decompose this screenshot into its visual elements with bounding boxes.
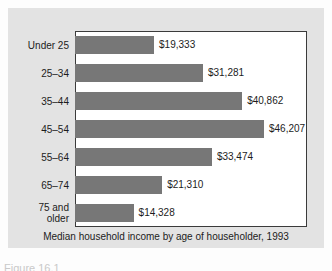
category-label: 25–34 (8, 59, 72, 87)
category-label-line: 75 and (38, 202, 69, 213)
bar-value-label: $33,474 (217, 152, 253, 162)
bar-row: $19,333 (75, 31, 307, 59)
category-label: 65–74 (8, 171, 72, 199)
bar-value-label: $19,333 (159, 40, 195, 50)
bar-row: $14,328 (75, 199, 307, 227)
bar (75, 176, 162, 194)
category-label-line: 35–44 (41, 96, 69, 107)
bar-row: $40,862 (75, 87, 307, 115)
category-label: 75 and older (8, 199, 72, 227)
bar (75, 204, 134, 222)
bar-value-label: $46,207 (269, 124, 305, 134)
bar-series: $19,333 $31,281 $40,862 $46,207 $33,474 … (75, 31, 307, 227)
bar-value-label: $14,328 (139, 208, 175, 218)
bar (75, 92, 242, 110)
bar-value-label: $21,310 (167, 180, 203, 190)
bar-row: $46,207 (75, 115, 307, 143)
bar-value-label: $40,862 (247, 96, 283, 106)
category-label-line: Under 25 (28, 40, 69, 51)
bar (75, 36, 154, 54)
category-label-line: 45–54 (41, 124, 69, 135)
category-axis-labels: Under 25 25–34 35–44 45–54 55–64 65–74 7… (8, 31, 72, 227)
figure-caption: Median household income by age of househ… (8, 231, 324, 243)
bar (75, 120, 264, 138)
category-label-line: 25–34 (41, 68, 69, 79)
bar-row: $21,310 (75, 171, 307, 199)
bar (75, 64, 203, 82)
category-label: 55–64 (8, 143, 72, 171)
category-label: 45–54 (8, 115, 72, 143)
category-label: 35–44 (8, 87, 72, 115)
category-label-line: 55–64 (41, 152, 69, 163)
category-label: Under 25 (8, 31, 72, 59)
figure-container: Under 25 25–34 35–44 45–54 55–64 65–74 7… (0, 0, 332, 271)
category-label-line: 65–74 (41, 180, 69, 191)
bar (75, 148, 212, 166)
bar-row: $33,474 (75, 143, 307, 171)
category-label-line: older (47, 213, 69, 224)
bar-row: $31,281 (75, 59, 307, 87)
cut-off-figure-number: Figure 16.1 (4, 263, 144, 271)
bar-value-label: $31,281 (208, 68, 244, 78)
